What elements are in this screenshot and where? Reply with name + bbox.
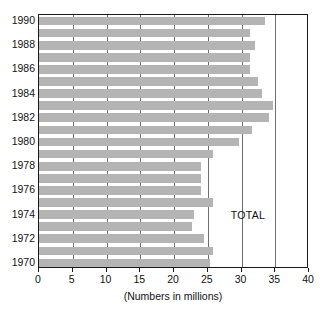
- y-tick-label-1984: 1984: [12, 87, 35, 98]
- x-axis-title: (Numbers in millions): [38, 290, 308, 302]
- bar-row: [39, 101, 307, 110]
- bar-row: [39, 89, 307, 98]
- x-tick-25: [207, 268, 208, 272]
- bar-1981: [39, 126, 252, 135]
- bar-1987: [39, 53, 250, 62]
- y-tick-label-1986: 1986: [12, 63, 35, 74]
- bar-1977: [39, 174, 201, 183]
- bar-row: [39, 29, 307, 38]
- bar-chart: 1990198819861984198219801978197619741972…: [0, 0, 322, 313]
- x-tick-0: [38, 268, 39, 272]
- bar-1978: [39, 162, 201, 171]
- bar-1988: [39, 41, 255, 50]
- bar-row: [39, 41, 307, 50]
- y-tick-label-1972: 1972: [12, 233, 35, 244]
- x-tick-35: [274, 268, 275, 272]
- x-tick-40: [308, 268, 309, 272]
- y-tick-label-1978: 1978: [12, 160, 35, 171]
- bar-1989: [39, 29, 250, 38]
- x-tick-label-40: 40: [302, 273, 314, 285]
- bar-row: [39, 198, 307, 207]
- y-tick-label-1990: 1990: [12, 15, 35, 26]
- bar-row: [39, 234, 307, 243]
- bar-row: [39, 162, 307, 171]
- bar-1984: [39, 89, 262, 98]
- bar-row: [39, 126, 307, 135]
- bar-1990: [39, 17, 265, 26]
- bar-1976: [39, 186, 201, 195]
- total-annotation: TOTAL: [231, 209, 265, 221]
- bar-row: [39, 247, 307, 256]
- x-tick-label-15: 15: [133, 273, 145, 285]
- plot-area: [38, 14, 308, 268]
- x-tick-20: [173, 268, 174, 272]
- x-tick-5: [72, 268, 73, 272]
- bar-row: [39, 113, 307, 122]
- bar-1980: [39, 138, 239, 147]
- y-tick-label-1982: 1982: [12, 112, 35, 123]
- bar-1972: [39, 234, 204, 243]
- bar-row: [39, 186, 307, 195]
- x-tick-label-20: 20: [167, 273, 179, 285]
- x-tick-label-25: 25: [201, 273, 213, 285]
- y-tick-label-1980: 1980: [12, 136, 35, 147]
- bar-1983: [39, 101, 273, 110]
- x-tick-30: [241, 268, 242, 272]
- bar-1974: [39, 210, 194, 219]
- y-tick-label-1976: 1976: [12, 184, 35, 195]
- x-axis: 0510152025303540: [38, 268, 308, 290]
- x-tick-10: [106, 268, 107, 272]
- bar-row: [39, 210, 307, 219]
- bar-1986: [39, 65, 250, 74]
- bar-1975: [39, 198, 213, 207]
- bar-row: [39, 53, 307, 62]
- y-tick-label-1974: 1974: [12, 208, 35, 219]
- y-tick-label-1970: 1970: [12, 257, 35, 268]
- bar-row: [39, 174, 307, 183]
- x-tick-label-10: 10: [100, 273, 112, 285]
- bar-row: [39, 222, 307, 231]
- bar-series: [39, 15, 307, 267]
- bar-1970: [39, 259, 210, 268]
- bar-row: [39, 65, 307, 74]
- x-tick-15: [139, 268, 140, 272]
- x-tick-label-30: 30: [235, 273, 247, 285]
- bar-row: [39, 17, 307, 26]
- x-tick-label-5: 5: [69, 273, 75, 285]
- x-tick-label-35: 35: [268, 273, 280, 285]
- bar-row: [39, 259, 307, 268]
- bar-1985: [39, 77, 258, 86]
- bar-row: [39, 77, 307, 86]
- bar-1979: [39, 150, 213, 159]
- y-tick-label-1988: 1988: [12, 39, 35, 50]
- x-tick-label-0: 0: [35, 273, 41, 285]
- bar-row: [39, 138, 307, 147]
- bar-1971: [39, 247, 213, 256]
- bar-row: [39, 150, 307, 159]
- bar-1973: [39, 222, 192, 231]
- bar-1982: [39, 113, 269, 122]
